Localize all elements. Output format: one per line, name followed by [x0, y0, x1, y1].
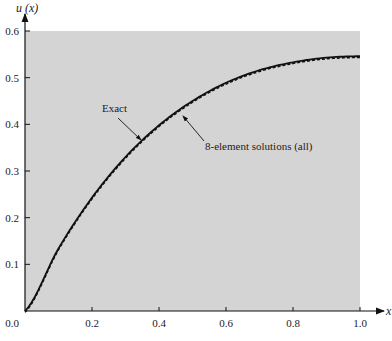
y-tick-label: 0.6: [5, 25, 19, 37]
chart: u (x) x 0.10.20.30.40.50.6 0.00.20.40.60…: [0, 0, 392, 341]
plot-area: [25, 31, 360, 311]
fem-annotation: 8-element solutions (all): [205, 140, 313, 153]
x-tick-label: 0.8: [286, 317, 300, 329]
x-tick-label: 0.6: [219, 317, 233, 329]
y-tick-label: 0.2: [5, 212, 19, 224]
x-tick-label: 0.2: [85, 317, 99, 329]
y-axis-label: u (x): [16, 1, 38, 15]
x-axis-label: x: [385, 304, 392, 318]
exact-annotation: Exact: [102, 102, 127, 114]
y-tick-label: 0.5: [5, 72, 19, 84]
x-tick-label: 1.0: [353, 317, 367, 329]
y-tick-label: 0.4: [5, 118, 19, 130]
y-tick-label: 0.3: [5, 165, 19, 177]
x-tick-label: 0.4: [152, 317, 166, 329]
x-tick-label: 0.0: [5, 317, 19, 329]
y-tick-label: 0.1: [5, 258, 19, 270]
